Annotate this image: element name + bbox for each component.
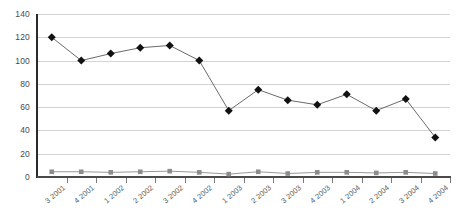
- y-axis-tick-label: 0: [2, 173, 30, 182]
- x-axis-tick-mark: [155, 178, 156, 183]
- x-axis-tick-mark: [67, 178, 68, 183]
- x-axis-tick-label: 1 2002: [103, 184, 126, 205]
- x-axis-tick-mark: [362, 178, 363, 183]
- x-axis-tick-mark: [450, 178, 451, 183]
- x-axis-tick-mark: [391, 178, 392, 183]
- x-axis-tick-label: 3 2001: [44, 184, 67, 205]
- y-axis-tick-labels: 020406080100120140: [0, 0, 33, 212]
- x-axis-tick-mark: [126, 178, 127, 183]
- x-axis-tick-label: 4 2002: [191, 184, 214, 205]
- y-axis-tick-label: 140: [2, 10, 30, 19]
- x-axis-tick-mark: [185, 178, 186, 183]
- y-axis-tick-label: 40: [2, 126, 30, 135]
- x-axis-tick-label: 1 2003: [221, 184, 244, 205]
- y-axis-tick-label: 120: [2, 33, 30, 42]
- grid-line: [37, 154, 450, 155]
- x-axis-tick-label: 3 2002: [162, 184, 185, 205]
- x-axis-tick-mark: [273, 178, 274, 183]
- grid-line: [37, 61, 450, 62]
- x-axis-tick-label: 2 2004: [368, 184, 391, 205]
- x-axis-tick-mark: [244, 178, 245, 183]
- x-axis-tick-label: 4 2001: [73, 184, 96, 205]
- grid-line: [37, 84, 450, 85]
- x-axis-tick-label: 2 2002: [132, 184, 155, 205]
- x-axis-tick-label: 4 2004: [427, 184, 450, 205]
- x-axis-tick-mark: [214, 178, 215, 183]
- x-axis-tick-label: 3 2003: [280, 184, 303, 205]
- grid-line: [37, 130, 450, 131]
- x-axis-tick-mark: [332, 178, 333, 183]
- y-axis-tick-label: 100: [2, 57, 30, 66]
- plot-area: [37, 14, 450, 177]
- x-axis-tick-label: 4 2003: [309, 184, 332, 205]
- y-axis-line: [36, 14, 38, 178]
- grid-line: [37, 107, 450, 108]
- grid-line: [37, 37, 450, 38]
- x-axis-tick-mark: [421, 178, 422, 183]
- line-chart: 020406080100120140 3 20014 20011 20022 2…: [0, 0, 466, 212]
- y-axis-tick-label: 20: [2, 150, 30, 159]
- x-axis-tick-label: 3 2004: [398, 184, 421, 205]
- grid-line: [37, 14, 450, 15]
- x-axis-tick-label: 1 2004: [339, 184, 362, 205]
- y-axis-tick-label: 80: [2, 80, 30, 89]
- x-axis-tick-mark: [96, 178, 97, 183]
- x-axis-tick-mark: [303, 178, 304, 183]
- x-axis-tick-label: 2 2003: [250, 184, 273, 205]
- y-axis-tick-label: 60: [2, 103, 30, 112]
